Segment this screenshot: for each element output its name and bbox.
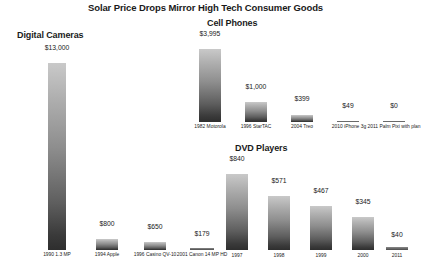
cat-label-dvd-0: 1997 (214, 253, 260, 259)
bar-value-phone-4: $0 (371, 102, 417, 109)
bar-value-camera-1: $800 (84, 220, 130, 227)
panel-cell-phones: Cell Phones $3,995 1982 Motorola $1,000 … (190, 18, 411, 138)
bar-dvd-0 (226, 174, 248, 250)
panel-title-cell-phones: Cell Phones (207, 18, 257, 28)
bar-value-dvd-3: $345 (340, 198, 386, 205)
bar-group-camera-1: $800 (84, 220, 130, 250)
bar-group-phone-1: $1,000 (233, 83, 279, 122)
bar-group-camera-0: $13,000 (34, 44, 80, 250)
bar-group-dvd-0: $840 (214, 155, 260, 250)
bar-camera-1 (96, 239, 118, 250)
bar-value-dvd-4: $40 (374, 231, 420, 238)
bar-camera-2 (144, 242, 166, 250)
bar-value-camera-2: $650 (132, 223, 178, 230)
bar-phone-0 (199, 49, 221, 122)
bar-dvd-3 (352, 217, 374, 250)
chart-title: Solar Price Drops Mirror High Tech Consu… (0, 2, 411, 13)
bar-dvd-4 (386, 247, 408, 250)
bar-phone-3 (337, 121, 359, 123)
bar-group-dvd-4: $40 (382, 231, 425, 250)
bar-group-dvd-1: $571 (256, 177, 302, 250)
bar-phone-4 (383, 121, 405, 122)
bar-value-phone-0: $3,995 (187, 30, 233, 37)
bar-value-camera-0: $13,000 (34, 44, 80, 51)
bar-camera-0 (48, 63, 66, 250)
bar-group-dvd-3: $345 (340, 198, 386, 250)
panel-dvd-players: DVD Players $840 1997 $571 1998 $467 199… (190, 143, 411, 277)
bar-phone-2 (291, 115, 313, 122)
panel-title-digital-cameras: Digital Cameras (17, 30, 84, 40)
cat-label-dvd-1: 1998 (256, 253, 302, 259)
bar-group-phone-4: $0 (371, 102, 417, 122)
panel-title-dvd-players: DVD Players (235, 143, 287, 153)
cat-label-phone-4: 2011 Palm Pixi with plan (365, 124, 423, 130)
bar-value-dvd-1: $571 (256, 177, 302, 184)
bar-group-phone-2: $399 (279, 95, 325, 122)
panel-digital-cameras: Digital Cameras $13,000 1990 1.3 MP $800… (0, 30, 190, 277)
cat-label-dvd-4: 2011 (374, 253, 420, 259)
bar-value-dvd-2: $467 (298, 187, 344, 194)
bar-value-phone-3: $49 (325, 102, 371, 109)
bar-group-phone-0: $3,995 (187, 30, 233, 122)
bar-phone-1 (245, 102, 267, 122)
bar-value-phone-2: $399 (279, 95, 325, 102)
bar-value-dvd-0: $840 (214, 155, 260, 162)
bar-group-dvd-2: $467 (298, 187, 344, 250)
bar-group-camera-2: $650 (132, 223, 178, 250)
bar-dvd-1 (268, 196, 290, 250)
bar-group-phone-3: $49 (325, 102, 371, 122)
cat-label-dvd-2: 1999 (298, 253, 344, 259)
bar-value-phone-1: $1,000 (233, 83, 279, 90)
bar-dvd-2 (310, 206, 332, 250)
